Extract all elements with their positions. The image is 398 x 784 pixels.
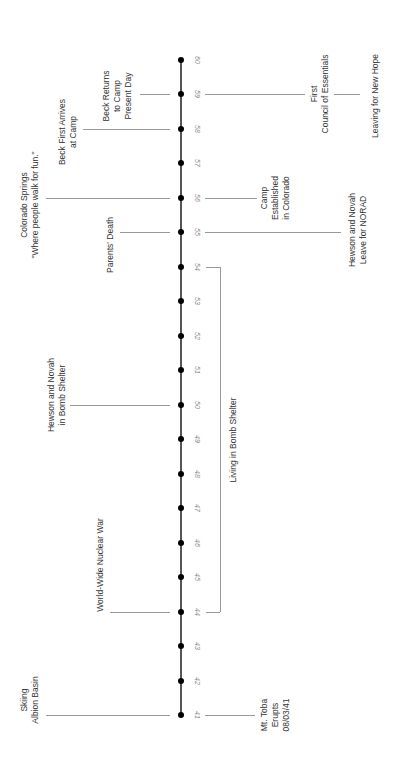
event-parents-death: Parents' Death bbox=[105, 217, 116, 273]
event-beck-returns: Beck Returns to Camp Present Day bbox=[101, 70, 134, 121]
tick-dot bbox=[178, 195, 184, 201]
bracket-spine bbox=[220, 267, 221, 612]
tick-dot bbox=[178, 712, 184, 718]
tick-label: 46 bbox=[194, 539, 201, 547]
event-mt-toba-erupts: Mt. Toba Erupts 08/03/41 bbox=[259, 698, 292, 731]
connector-line bbox=[140, 94, 170, 95]
tick-dot bbox=[178, 402, 184, 408]
tick-label: 43 bbox=[194, 642, 201, 650]
connector-line bbox=[46, 715, 170, 716]
connector-line bbox=[205, 94, 305, 95]
connector-line bbox=[46, 198, 170, 199]
tick-label: 57 bbox=[194, 159, 201, 167]
tick-dot bbox=[178, 229, 184, 235]
tick-dot bbox=[178, 540, 184, 546]
event-first-council: First Council of Essentials bbox=[309, 55, 331, 134]
tick-label: 52 bbox=[194, 332, 201, 340]
tick-dot bbox=[178, 471, 184, 477]
timeline-diagram: 41 42 43 44 45 46 47 48 49 50 51 52 53 5… bbox=[0, 0, 398, 784]
tick-dot bbox=[178, 126, 184, 132]
timeline-axis bbox=[180, 60, 182, 715]
connector-line bbox=[120, 232, 170, 233]
tick-label: 55 bbox=[194, 228, 201, 236]
tick-label: 58 bbox=[194, 125, 201, 133]
event-skiing-albion-basin: Skiing Albion Basin bbox=[19, 676, 41, 723]
tick-dot bbox=[178, 160, 184, 166]
tick-dot bbox=[178, 91, 184, 97]
tick-dot bbox=[178, 436, 184, 442]
event-camp-established: Camp Established in Colorado bbox=[259, 176, 292, 220]
connector-line bbox=[205, 715, 255, 716]
tick-label: 41 bbox=[194, 711, 201, 719]
tick-label: 44 bbox=[194, 608, 201, 616]
tick-dot bbox=[178, 609, 184, 615]
tick-dot bbox=[178, 298, 184, 304]
connector-line bbox=[70, 405, 170, 406]
tick-label: 56 bbox=[194, 194, 201, 202]
tick-dot bbox=[178, 57, 184, 63]
event-leave-for-norad: Hewson and Novah Leave for NORAD bbox=[347, 193, 369, 267]
tick-dot bbox=[178, 678, 184, 684]
bracket-bottom bbox=[206, 612, 220, 613]
bracket-top bbox=[206, 267, 220, 268]
connector-line bbox=[205, 232, 341, 233]
connector-line bbox=[83, 129, 170, 130]
tick-label: 42 bbox=[194, 677, 201, 685]
tick-label: 54 bbox=[194, 263, 201, 271]
event-hewson-novah-bomb-shelter: Hewson and Novah in Bomb Shelter bbox=[46, 358, 68, 432]
event-beck-first-arrives: Beck First Arrives at Camp bbox=[57, 99, 79, 165]
tick-label: 51 bbox=[194, 366, 201, 374]
tick-dot bbox=[178, 333, 184, 339]
tick-label: 48 bbox=[194, 470, 201, 478]
connector-line bbox=[205, 198, 257, 199]
tick-label: 47 bbox=[194, 504, 201, 512]
connector-line bbox=[334, 94, 360, 95]
tick-label: 59 bbox=[194, 90, 201, 98]
tick-dot bbox=[178, 505, 184, 511]
tick-dot bbox=[178, 367, 184, 373]
tick-dot bbox=[178, 264, 184, 270]
connector-line bbox=[110, 612, 170, 613]
tick-label: 49 bbox=[194, 435, 201, 443]
event-leaving-for-new-hope: Leaving for New Hope bbox=[370, 54, 381, 138]
event-living-in-bomb-shelter: Living in Bomb Shelter bbox=[228, 397, 239, 482]
tick-label: 60 bbox=[194, 56, 201, 64]
tick-label: 45 bbox=[194, 573, 201, 581]
event-world-wide-nuclear-war: World-Wide Nuclear War bbox=[95, 518, 106, 612]
tick-dot bbox=[178, 643, 184, 649]
tick-dot bbox=[178, 574, 184, 580]
event-colorado-springs: Colorado Springs "Where people walk for … bbox=[19, 151, 41, 258]
tick-label: 53 bbox=[194, 297, 201, 305]
tick-label: 50 bbox=[194, 401, 201, 409]
